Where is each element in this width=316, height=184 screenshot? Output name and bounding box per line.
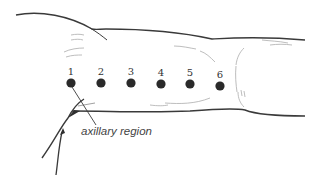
point-3-label: 3 (128, 66, 134, 77)
arm-upper-contour (16, 13, 305, 40)
point-4-dot (156, 79, 165, 88)
point-6-dot (215, 81, 224, 90)
point-2-label: 2 (98, 66, 104, 77)
armpit-tick (78, 103, 95, 106)
arm-lower-contour (72, 109, 305, 116)
torso-edge-lower (56, 132, 62, 175)
point-3-dot (126, 78, 135, 87)
measurement-points: 123456 (66, 66, 224, 91)
point-2-dot (96, 78, 105, 87)
point-1-label: 1 (68, 66, 74, 77)
arm-outline-drawing: 123456 axillary region (0, 0, 316, 184)
point-1-dot (66, 78, 75, 87)
point-4-label: 4 (158, 67, 164, 78)
arm-diagram: 123456 axillary region (0, 0, 316, 184)
axillary-region-label: axillary region (81, 125, 152, 137)
point-5-dot (185, 79, 194, 88)
point-6-label: 6 (217, 69, 223, 80)
point-5-label: 5 (187, 67, 193, 78)
